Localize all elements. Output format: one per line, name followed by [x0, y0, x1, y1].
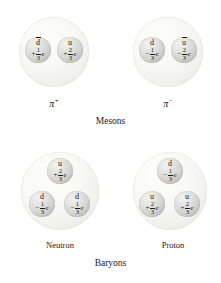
charge-unit: e	[41, 51, 44, 58]
particle-label-pi-plus: π+	[24, 96, 84, 110]
group-label-mesons: Mesons	[0, 116, 221, 126]
quark-proton-top: d − 1 3 e	[157, 158, 183, 184]
quark-flavor-label: u	[150, 193, 154, 201]
quark-charge-label: − 1 3 e	[145, 47, 158, 62]
fraction-denominator: 3	[68, 55, 72, 62]
pi-symbol: π	[163, 98, 168, 109]
fraction-numerator: 2	[150, 201, 154, 208]
charge-fraction: 1 3	[75, 201, 80, 216]
fraction-numerator: 1	[168, 168, 172, 175]
quark-flavor-label: u	[182, 39, 186, 47]
fraction-denominator: 3	[40, 209, 44, 216]
charge-sign: −	[177, 51, 181, 58]
charge-fraction: 2 3	[182, 47, 187, 62]
quark-charge-label: − 2 3 e	[177, 47, 190, 62]
fraction-numerator: 1	[75, 201, 79, 208]
charge-sign: +	[31, 51, 35, 58]
charge-fraction: 2 3	[150, 201, 155, 216]
pi-superscript: −	[169, 97, 173, 105]
particle-label-proton: Proton	[139, 240, 207, 251]
quark-charge-label: − 1 3 e	[35, 201, 48, 216]
charge-unit: e	[80, 205, 83, 212]
quark-charge-label: + 2 3 e	[180, 201, 193, 216]
fraction-denominator: 3	[168, 176, 172, 183]
charge-unit: e	[155, 205, 158, 212]
fraction-denominator: 3	[150, 209, 154, 216]
fraction-numerator: 2	[68, 47, 72, 54]
quark-flavor-label: u	[58, 160, 62, 168]
quark-pi-plus-left: d + 1 3 e	[25, 37, 51, 63]
fraction-denominator: 3	[182, 55, 186, 62]
charge-unit: e	[73, 51, 76, 58]
quark-neutron-bottom-left: d − 1 3 e	[29, 191, 55, 217]
charge-fraction: 1 3	[168, 168, 173, 183]
particle-label-neutron: Neutron	[24, 240, 96, 251]
charge-fraction: 2 3	[185, 201, 190, 216]
quark-flavor-label: d	[150, 39, 154, 47]
group-label-baryons: Baryons	[0, 258, 221, 268]
charge-unit: e	[45, 205, 48, 212]
charge-unit: e	[173, 172, 176, 179]
quark-proton-bottom-left: u + 2 3 e	[139, 191, 165, 217]
fraction-numerator: 1	[36, 47, 40, 54]
charge-fraction: 2 3	[68, 47, 73, 62]
fraction-numerator: 1	[150, 47, 154, 54]
charge-unit: e	[190, 205, 193, 212]
charge-sign: +	[63, 51, 67, 58]
fraction-numerator: 2	[58, 168, 62, 175]
charge-fraction: 1 3	[150, 47, 155, 62]
fraction-denominator: 3	[185, 209, 189, 216]
fraction-denominator: 3	[58, 176, 62, 183]
quark-charge-label: + 2 3 e	[63, 47, 76, 62]
charge-unit: e	[155, 51, 158, 58]
quark-charge-label: − 1 3 e	[163, 168, 176, 183]
charge-sign: −	[35, 205, 39, 212]
charge-sign: +	[145, 205, 149, 212]
pi-symbol: π	[49, 98, 54, 109]
quark-pi-minus-right: u − 2 3 e	[171, 37, 197, 63]
quark-flavor-label: u	[185, 193, 189, 201]
charge-unit: e	[63, 172, 66, 179]
quark-charge-label: + 2 3 e	[145, 201, 158, 216]
quark-flavor-label: u	[68, 39, 72, 47]
quark-charge-label: + 1 3 e	[31, 47, 44, 62]
quark-charge-label: − 1 3 e	[70, 201, 83, 216]
quark-proton-bottom-right: u + 2 3 e	[174, 191, 200, 217]
charge-sign: +	[53, 172, 57, 179]
quark-pi-plus-right: u + 2 3 e	[57, 37, 83, 63]
pi-superscript: +	[55, 97, 59, 105]
fraction-denominator: 3	[150, 55, 154, 62]
fraction-denominator: 3	[75, 209, 79, 216]
quark-neutron-bottom-right: d − 1 3 e	[64, 191, 90, 217]
fraction-denominator: 3	[36, 55, 40, 62]
charge-sign: −	[163, 172, 167, 179]
quark-flavor-label: d	[75, 193, 79, 201]
quark-pi-minus-left: d − 1 3 e	[139, 37, 165, 63]
charge-unit: e	[187, 51, 190, 58]
quark-flavor-label: d	[40, 193, 44, 201]
quark-flavor-label: d	[36, 39, 40, 47]
quark-composition-figure: d + 1 3 e u + 2 3 e π+ d −	[0, 0, 221, 283]
quark-flavor-label: d	[168, 160, 172, 168]
charge-fraction: 1 3	[40, 201, 45, 216]
charge-sign: +	[180, 205, 184, 212]
charge-sign: −	[70, 205, 74, 212]
charge-fraction: 1 3	[36, 47, 41, 62]
quark-neutron-top: u + 2 3 e	[47, 158, 73, 184]
fraction-numerator: 1	[40, 201, 44, 208]
fraction-numerator: 2	[182, 47, 186, 54]
particle-label-pi-minus: π−	[138, 96, 198, 110]
charge-fraction: 2 3	[58, 168, 63, 183]
quark-charge-label: + 2 3 e	[53, 168, 66, 183]
charge-sign: −	[145, 51, 149, 58]
fraction-numerator: 2	[185, 201, 189, 208]
